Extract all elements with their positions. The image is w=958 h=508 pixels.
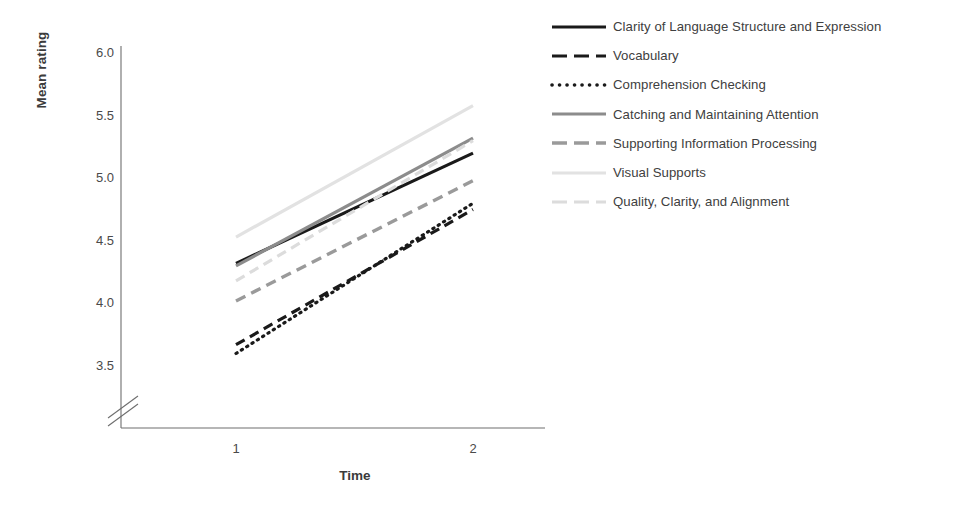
- legend-item[interactable]: Vocabulary: [551, 41, 951, 70]
- legend-line-swatch-icon: [551, 166, 607, 180]
- series-line: [236, 181, 473, 301]
- legend-item-label: Quality, Clarity, and Alignment: [613, 194, 789, 209]
- axis-break-icon: [108, 396, 138, 426]
- series-line: [236, 141, 473, 281]
- legend-item-label: Visual Supports: [613, 165, 706, 180]
- legend-line-swatch-icon: [551, 136, 607, 150]
- plot-area: Mean rating 6.05.55.04.54.03.5 12 Time: [0, 0, 560, 508]
- x-axis-title: Time: [339, 468, 370, 483]
- line-chart-figure: Mean rating 6.05.55.04.54.03.5 12 Time C…: [0, 0, 958, 508]
- series-line: [236, 203, 473, 353]
- legend-item[interactable]: Supporting Information Processing: [551, 129, 951, 158]
- chart-legend: Clarity of Language Structure and Expres…: [551, 12, 951, 216]
- plot-canvas: [0, 0, 560, 508]
- legend-item-label: Clarity of Language Structure and Expres…: [613, 19, 881, 34]
- legend-item-label: Supporting Information Processing: [613, 136, 817, 151]
- legend-item[interactable]: Catching and Maintaining Attention: [551, 100, 951, 129]
- legend-item-label: Comprehension Checking: [613, 77, 766, 92]
- legend-item-label: Catching and Maintaining Attention: [613, 107, 819, 122]
- legend-item-label: Vocabulary: [613, 48, 679, 63]
- legend-item[interactable]: Comprehension Checking: [551, 70, 951, 99]
- x-tick-label: 1: [232, 441, 239, 456]
- legend-line-swatch-icon: [551, 20, 607, 34]
- legend-line-swatch-icon: [551, 195, 607, 209]
- legend-line-swatch-icon: [551, 107, 607, 121]
- legend-item[interactable]: Quality, Clarity, and Alignment: [551, 187, 951, 216]
- x-tick-label: 2: [469, 441, 476, 456]
- legend-item[interactable]: Clarity of Language Structure and Expres…: [551, 12, 951, 41]
- legend-item[interactable]: Visual Supports: [551, 158, 951, 187]
- series-lines-group: [236, 106, 473, 354]
- legend-line-swatch-icon: [551, 78, 607, 92]
- legend-line-swatch-icon: [551, 49, 607, 63]
- series-line: [236, 138, 473, 266]
